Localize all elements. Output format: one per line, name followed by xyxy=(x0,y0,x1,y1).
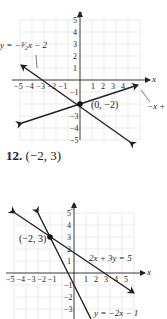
x-ticks-pos-12: 1 2 3 4 5 xyxy=(84,275,128,284)
eq2-label-12: y = −2x − 1 xyxy=(94,308,138,318)
y-ticks: 54321 xyxy=(73,15,77,75)
x-ticks-neg: −5 −4 −3 −2 −1 xyxy=(14,82,67,91)
y-ticks-12: 54321 xyxy=(67,208,71,268)
point-label: (0, −2) xyxy=(91,99,118,110)
x-ticks-neg-12: −5 −4 −3 −2 −1 xyxy=(6,275,57,284)
eq1-label: y = −³⁄₂x − 2 xyxy=(0,40,47,50)
eq1-label-12: 2x + 3y = 5 xyxy=(89,253,132,263)
point-label-12: (−2, 3) xyxy=(19,233,46,244)
x-axis-label-12: x xyxy=(147,267,151,277)
problem-12-heading: 12. (−2, 3) xyxy=(6,148,61,164)
x-axis-label: x xyxy=(152,74,156,84)
y-axis-label-12: y xyxy=(72,200,76,210)
y-ticks-neg-12: −1−2−3 xyxy=(64,280,73,316)
y-ticks-neg: −1−3−4−5 xyxy=(70,87,79,147)
eq2-label: −x + xyxy=(147,101,165,111)
x-ticks-pos: 1 2 3 4 xyxy=(91,82,125,91)
y-axis-label: y xyxy=(78,8,82,18)
intersection-point-12 xyxy=(47,234,53,240)
